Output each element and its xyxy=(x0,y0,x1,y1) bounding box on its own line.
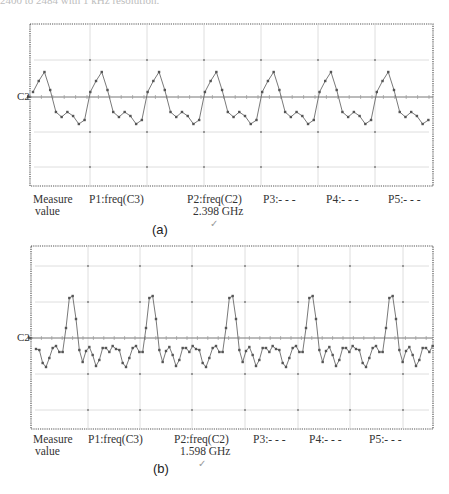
sample-point xyxy=(148,297,150,299)
sample-point xyxy=(308,297,310,299)
sample-point xyxy=(358,349,360,351)
sample-point xyxy=(228,297,230,299)
sample-point xyxy=(375,345,377,347)
sample-point xyxy=(258,359,260,361)
sample-point xyxy=(415,365,417,367)
sample-point xyxy=(75,318,77,320)
sample-point xyxy=(231,295,233,297)
sample-point xyxy=(161,361,163,363)
sample-point xyxy=(115,348,117,350)
sample-point xyxy=(141,351,143,353)
sample-point xyxy=(91,354,93,356)
p3-measure[interactable]: P3:- - - xyxy=(253,433,286,445)
waveform-trace xyxy=(36,296,433,367)
sample-point xyxy=(405,350,407,352)
sample-point xyxy=(45,366,47,368)
sample-point xyxy=(181,347,183,349)
sample-point xyxy=(185,347,187,349)
sample-point xyxy=(305,327,307,329)
panel-label-b: (b) xyxy=(153,461,169,476)
sample-point xyxy=(98,359,100,361)
sample-point xyxy=(35,348,37,350)
sample-point xyxy=(351,345,353,347)
sample-point xyxy=(368,357,370,359)
sample-point xyxy=(385,327,387,329)
sample-point xyxy=(128,357,130,359)
sample-point xyxy=(311,295,313,297)
sample-point xyxy=(71,295,73,297)
p2-value: 1.598 GHz xyxy=(180,445,230,457)
sample-point xyxy=(191,345,193,347)
sample-point xyxy=(61,351,63,353)
sample-point xyxy=(348,351,350,353)
sample-point xyxy=(388,297,390,299)
sample-point xyxy=(121,362,123,364)
sample-point xyxy=(171,354,173,356)
sample-point xyxy=(341,347,343,349)
sample-point xyxy=(55,345,57,347)
p2-measure[interactable]: P2:freq(C2) xyxy=(174,433,229,445)
sample-point xyxy=(391,295,393,297)
sample-point xyxy=(205,366,207,368)
sample-point xyxy=(428,351,430,353)
sample-point xyxy=(291,347,293,349)
measure-row-b: Measure value P1:freq(C3) P2:freq(C2) 1.… xyxy=(0,433,449,473)
sample-point xyxy=(421,347,423,349)
sample-point xyxy=(108,351,110,353)
sample-point xyxy=(118,349,120,351)
sample-point xyxy=(285,366,287,368)
sample-point xyxy=(331,354,333,356)
check-icon-b: ✓ xyxy=(198,458,206,469)
sample-point xyxy=(398,349,400,351)
sample-point xyxy=(335,365,337,367)
sample-point xyxy=(355,348,357,350)
sample-point xyxy=(325,350,327,352)
sample-point xyxy=(195,348,197,350)
sample-point xyxy=(201,362,203,364)
sample-point xyxy=(138,351,140,353)
sample-point xyxy=(371,347,373,349)
sample-point xyxy=(248,346,250,348)
sample-point xyxy=(278,349,280,351)
sample-point xyxy=(131,347,133,349)
sample-point xyxy=(178,359,180,361)
sample-point xyxy=(328,346,330,348)
p5-measure[interactable]: P5:- - - xyxy=(369,433,402,445)
sample-point xyxy=(145,327,147,329)
sample-point xyxy=(125,366,127,368)
sample-point xyxy=(51,347,53,349)
sample-point xyxy=(188,351,190,353)
sample-point xyxy=(68,297,70,299)
sample-point xyxy=(215,345,217,347)
sample-point xyxy=(235,318,237,320)
sample-point xyxy=(271,345,273,347)
sample-point xyxy=(281,362,283,364)
sample-point xyxy=(155,318,157,320)
sample-point xyxy=(38,349,40,351)
sample-point xyxy=(425,347,427,349)
sample-point xyxy=(78,349,80,351)
sample-point xyxy=(381,351,383,353)
sample-point xyxy=(245,350,247,352)
p1-measure[interactable]: P1:freq(C3) xyxy=(88,433,143,445)
sample-point xyxy=(85,350,87,352)
sample-point xyxy=(321,361,323,363)
sample-point xyxy=(175,365,177,367)
sample-point xyxy=(255,365,257,367)
sample-point xyxy=(111,345,113,347)
sample-point xyxy=(58,351,60,353)
p4-measure[interactable]: P4:- - - xyxy=(309,433,342,445)
sample-point xyxy=(298,351,300,353)
oscilloscope-panel-b xyxy=(0,0,449,440)
sample-point xyxy=(101,347,103,349)
waveform-chart-b xyxy=(0,0,449,440)
sample-point xyxy=(315,318,317,320)
sample-point xyxy=(395,318,397,320)
sample-point xyxy=(238,349,240,351)
sample-point xyxy=(361,362,363,364)
sample-point xyxy=(48,357,50,359)
sample-point xyxy=(418,359,420,361)
sample-point xyxy=(301,351,303,353)
sample-point xyxy=(65,327,67,329)
sample-point xyxy=(251,354,253,356)
